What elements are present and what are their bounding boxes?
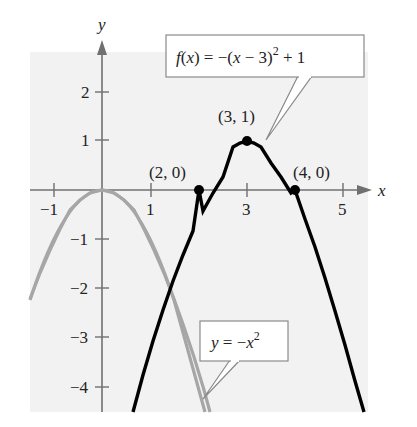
point-4-0 [290,185,300,195]
y-tick-label: −2 [70,279,88,298]
x-tick-label: 3 [242,200,251,219]
chart-canvas: y x −1 1 3 5 2 1 −1 −2 −3 −4 (2, 0) (3, … [0,0,417,427]
y-tick-label: −3 [70,328,88,347]
point-label-2-0: (2, 0) [149,163,186,182]
x-axis-label: x [377,181,386,200]
y-tick-label: 2 [81,83,90,102]
point-2-0 [194,185,204,195]
y-tick-label: 1 [81,131,90,150]
x-tick-label: 1 [146,200,155,219]
point-label-3-1: (3, 1) [218,107,255,126]
y-tick-label: −1 [70,230,88,249]
y-tick-label: −4 [70,378,89,397]
x-tick-label: −1 [40,200,58,219]
svg-text:f(x) = −(x − 3)2 + 1: f(x) = −(x − 3)2 + 1 [176,44,305,67]
x-tick-label: 5 [338,200,347,219]
y-axis-label: y [96,15,106,34]
svg-text:y = −x2: y = −x2 [209,329,260,352]
point-label-4-0: (4, 0) [293,163,330,182]
point-3-1 [242,136,252,146]
